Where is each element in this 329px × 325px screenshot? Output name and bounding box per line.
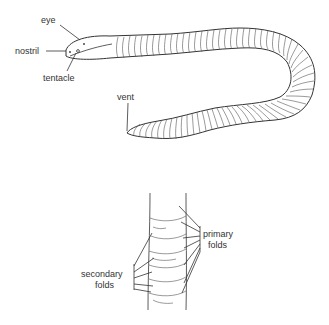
label-primary-line1: primary	[203, 229, 234, 239]
label-eye: eye	[41, 15, 56, 25]
vent-leader	[127, 103, 128, 131]
label-primary-line2: folds	[208, 240, 228, 250]
label-nostril: nostril	[15, 46, 39, 56]
fold-rings	[149, 216, 186, 303]
caecilian-diagram: eye nostril tentacle vent primary	[0, 0, 329, 325]
label-vent: vent	[117, 92, 135, 102]
eye-dot	[83, 43, 85, 45]
body-outline	[66, 28, 315, 139]
body-section-figure: primary folds secondary folds	[81, 193, 234, 310]
nostril-dot	[69, 51, 71, 53]
label-tentacle: tentacle	[43, 73, 75, 83]
label-secondary-line2: folds	[95, 280, 115, 290]
label-secondary-line1: secondary	[81, 269, 123, 279]
whole-body-figure: eye nostril tentacle vent	[15, 15, 315, 139]
eye-leader	[60, 25, 80, 40]
